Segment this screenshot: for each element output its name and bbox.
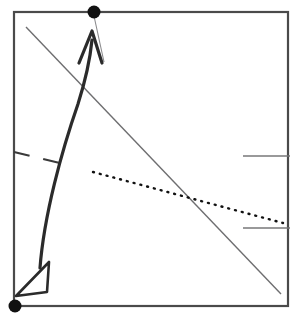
diagram-canvas (0, 0, 297, 329)
top-marker-dot (88, 6, 101, 19)
figure-root (0, 0, 297, 329)
bottom-left-marker-dot (9, 300, 22, 313)
canvas-background (0, 0, 297, 329)
